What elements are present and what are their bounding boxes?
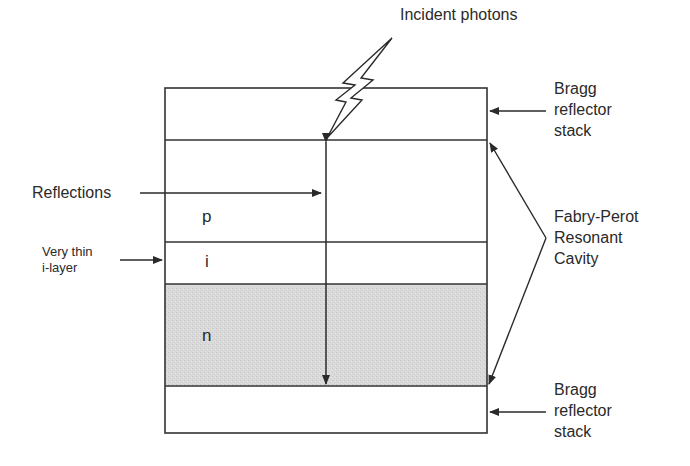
thin-i-layer-label-line2: i-layer — [42, 260, 77, 276]
i-layer-label: i — [205, 252, 209, 272]
p-layer-label: p — [202, 207, 211, 227]
incident-photons-label: Incident photons — [400, 5, 517, 24]
bragg-top-label-line1: Bragg — [554, 79, 597, 98]
bragg-top-label-line2: reflector — [554, 100, 612, 119]
thin-i-layer-label-line1: Very thin — [42, 244, 93, 260]
cavity-label-line1: Fabry-Perot — [554, 207, 638, 226]
bragg-bottom-label-line1: Bragg — [554, 380, 597, 399]
bragg-top-label-line3: stack — [554, 121, 591, 140]
cavity-arrow-bottom — [489, 238, 546, 384]
cavity-arrow-top — [490, 143, 546, 238]
cavity-label-line3: Cavity — [554, 249, 598, 268]
n-layer-label: n — [202, 326, 211, 346]
reflections-label: Reflections — [32, 183, 111, 202]
cavity-label-line2: Resonant — [554, 228, 623, 247]
bragg-bottom-label-line2: reflector — [554, 401, 612, 420]
bragg-bottom-label-line3: stack — [554, 422, 591, 441]
